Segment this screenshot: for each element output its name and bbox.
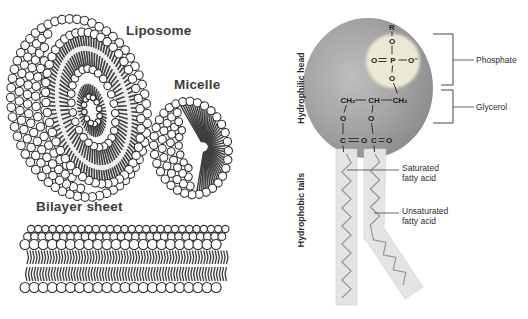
- formula-atom: C: [340, 136, 346, 145]
- formula-atom: CH: [368, 96, 380, 105]
- bilayer-sheet-figure: [20, 225, 229, 292]
- formula-atom: O: [371, 56, 377, 65]
- micelle-figure: [142, 91, 241, 206]
- phosphate-bracket: [433, 34, 453, 85]
- formula-atom: O: [389, 74, 395, 83]
- lipid-structures-drawing: [0, 0, 264, 319]
- formula-atom: O: [389, 37, 395, 46]
- formula-atom: P: [390, 56, 396, 65]
- formula-atom: O: [340, 114, 346, 123]
- formula-atom: C: [371, 136, 377, 145]
- glycerol-label: Glycerol: [476, 102, 507, 112]
- hydrophobic-tails-label: Hydrophobic tails: [296, 173, 306, 247]
- saturated-tail-band: [336, 149, 357, 305]
- phospholipid-diagram: ROOPO⁻OCH₂CHCH₂OOCOCO Liposome Micelle B…: [0, 0, 528, 319]
- formula-atom: O: [361, 136, 367, 145]
- hydrophilic-head-label: Hydrophilic head: [296, 52, 306, 123]
- liposome-label: Liposome: [126, 23, 191, 38]
- formula-atom: O⁻: [408, 56, 418, 65]
- formula-atom: R: [389, 23, 395, 32]
- formula-atom: O: [386, 136, 392, 145]
- phospholipid-molecule-drawing: ROOPO⁻OCH₂CHCH₂OOCOCO: [264, 0, 528, 319]
- formula-atom: CH₂: [392, 96, 408, 105]
- glycerol-bracket: [433, 90, 453, 123]
- bilayer-sheet-label: Bilayer sheet: [36, 199, 123, 214]
- hydrophilic-head-sphere: [303, 18, 433, 158]
- micelle-label: Micelle: [174, 77, 220, 92]
- formula-atom: O: [368, 114, 374, 123]
- unsaturated-fatty-acid-label: Unsaturated fatty acid: [402, 206, 448, 226]
- saturated-fatty-acid-label: Saturated fatty acid: [402, 163, 439, 183]
- formula-atom: CH₂: [340, 96, 356, 105]
- phosphate-label: Phosphate: [476, 55, 517, 65]
